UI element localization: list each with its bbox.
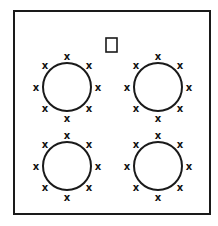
seat-x-mark: x [64,113,71,124]
seat-x-mark: x [86,182,93,193]
seat-x-mark: x [177,182,184,193]
round-table-circle [43,142,91,190]
seating-diagram: xxxxxxxxxxxxxxxxxxxxxxxxxxxxxxxx [0,0,218,226]
seat-x-mark: x [186,82,193,93]
seat-x-mark: x [64,51,71,62]
seat-x-mark: x [155,51,162,62]
seat-x-mark: x [42,60,49,71]
seat-x-mark: x [95,82,102,93]
seat-x-mark: x [86,60,93,71]
seat-x-mark: x [155,130,162,141]
table-top-right: xxxxxxxx [124,51,193,124]
seat-x-mark: x [64,192,71,203]
tables-group: xxxxxxxxxxxxxxxxxxxxxxxxxxxxxxxx [33,51,193,203]
seat-x-mark: x [42,103,49,114]
round-table-circle [43,63,91,111]
round-table-circle [134,142,182,190]
table-bottom-right: xxxxxxxx [124,130,193,203]
seat-x-mark: x [133,182,140,193]
marker-square [106,38,117,52]
seat-x-mark: x [33,161,40,172]
table-top-left: xxxxxxxx [33,51,102,124]
seat-x-mark: x [155,192,162,203]
seat-x-mark: x [95,161,102,172]
seat-x-mark: x [42,182,49,193]
seat-x-mark: x [42,139,49,150]
seat-x-mark: x [86,103,93,114]
table-bottom-left: xxxxxxxx [33,130,102,203]
seat-x-mark: x [133,139,140,150]
seat-x-mark: x [155,113,162,124]
seat-x-mark: x [133,60,140,71]
seat-x-mark: x [124,161,131,172]
seat-x-mark: x [186,161,193,172]
seat-x-mark: x [86,139,93,150]
seat-x-mark: x [133,103,140,114]
round-table-circle [134,63,182,111]
seat-x-mark: x [177,60,184,71]
seat-x-mark: x [33,82,40,93]
seat-x-mark: x [177,139,184,150]
seat-x-mark: x [64,130,71,141]
seat-x-mark: x [124,82,131,93]
seat-x-mark: x [177,103,184,114]
